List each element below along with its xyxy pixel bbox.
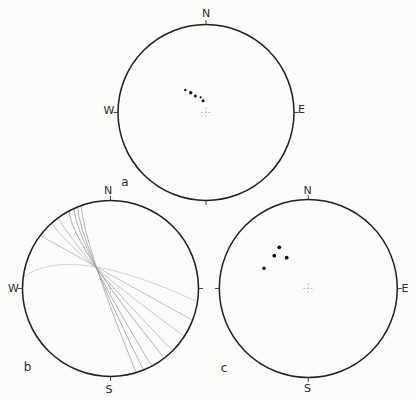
compass-label-s-b: S	[106, 383, 113, 396]
compass-label-n-c: N	[303, 184, 311, 197]
great-circle-arc-b-8	[81, 206, 136, 373]
figure-page: NWEaNWSbNESc	[0, 0, 416, 400]
pole-dot-a-4	[200, 96, 202, 98]
compass-label-w-b: W	[8, 282, 19, 295]
pole-dot-a-1	[184, 89, 186, 91]
compass-label-e-c: E	[402, 282, 409, 295]
great-circle-arc-b-3	[52, 223, 185, 336]
compass-label-w-a: W	[104, 104, 115, 117]
pole-dot-c-1	[277, 245, 281, 249]
pole-dot-c-3	[285, 256, 289, 260]
compass-label-s-c: S	[304, 382, 311, 395]
pole-dot-c-2	[272, 254, 276, 258]
compass-label-n-a: N	[202, 7, 210, 20]
panel-label-c: c	[221, 361, 228, 375]
compass-label-n-b: N	[104, 184, 112, 197]
pole-dot-a-2	[189, 91, 192, 94]
pole-dot-a-3	[194, 95, 197, 98]
pole-dot-a-5	[202, 99, 205, 102]
great-circle-arc-b-1	[23, 264, 197, 301]
panel-label-b: b	[24, 360, 32, 374]
scan-artifact-a-1	[292, 140, 295, 145]
panel-label-a: a	[121, 175, 128, 189]
compass-label-e-a: E	[298, 103, 305, 116]
great-circle-arc-b-2	[40, 236, 192, 321]
stereonet-figure: NWEaNWSbNESc	[0, 0, 416, 400]
pole-dot-c-4	[262, 267, 266, 271]
